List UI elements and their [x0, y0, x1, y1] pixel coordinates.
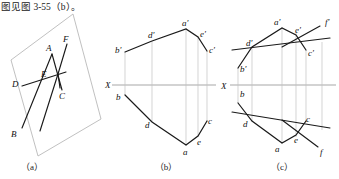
label-e-c: e: [294, 135, 298, 145]
panel-c-labels: a′ f′ e′ d′ c′ b′ b d c e a f: [240, 17, 331, 157]
label-e-prime-c: e′: [295, 25, 302, 35]
x-axis-label-c: X: [220, 81, 227, 91]
line-to-f-prime: [282, 26, 320, 47]
label-b-c: b: [240, 89, 245, 99]
panel-label-c: （c）: [271, 162, 293, 172]
label-c-c: c: [306, 114, 310, 124]
label-a-c: a: [275, 144, 280, 154]
label-b-prime-c: b′: [240, 64, 248, 74]
label-f-c: f: [320, 147, 324, 157]
figure-container: 图见图 3-55（b）。 A F E D B C: [0, 0, 339, 179]
label-f-prime-c: f′: [325, 17, 331, 27]
label-d-c: d: [243, 119, 248, 129]
panel-c-axis: X: [220, 81, 336, 91]
label-a-prime-c: a′: [274, 17, 282, 27]
line-to-f: [282, 120, 318, 147]
label-d-prime-c: d′: [246, 38, 254, 48]
panel-c-drawing: X a′ f′ e′: [0, 0, 339, 179]
label-c-prime-c: c′: [308, 48, 315, 58]
